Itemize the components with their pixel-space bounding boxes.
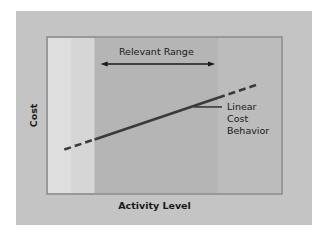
annotation-line-behavior: Behavior bbox=[227, 125, 269, 136]
x-axis-label: Activity Level bbox=[118, 200, 191, 211]
cost-behavior-diagram: Relevant Range Linear Cost Behavior Acti… bbox=[0, 0, 328, 238]
annotation-line-linear: Linear bbox=[227, 101, 257, 112]
relevant-range-region bbox=[95, 38, 218, 193]
y-axis-label: Cost bbox=[28, 103, 39, 127]
annotation-line-cost: Cost bbox=[227, 113, 248, 124]
region-below-relevant-range-highlight bbox=[48, 38, 71, 193]
relevant-range-label: Relevant Range bbox=[119, 46, 194, 57]
